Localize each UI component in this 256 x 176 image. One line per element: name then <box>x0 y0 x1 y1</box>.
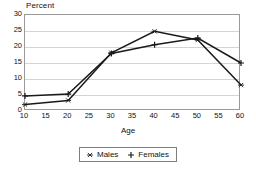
plus-marker-icon <box>127 151 135 159</box>
x-tick-label: 20 <box>63 112 71 120</box>
series-line <box>25 31 241 104</box>
x-tick-label: 40 <box>149 112 157 120</box>
x-tick-label: 30 <box>106 112 114 120</box>
series-females <box>22 35 244 99</box>
legend-label: Females <box>138 150 169 159</box>
data-point-marker <box>238 83 244 87</box>
y-axis-tick-labels: 051015202530 <box>0 14 22 110</box>
legend-label: Males <box>97 150 118 159</box>
y-tick-label: 15 <box>0 58 22 66</box>
data-point-marker <box>22 102 28 106</box>
x-tick-label: 55 <box>214 112 222 120</box>
y-tick-label: 0 <box>0 106 22 114</box>
y-tick-label: 20 <box>0 42 22 50</box>
data-point-marker <box>238 60 244 66</box>
series-layer <box>25 15 241 111</box>
data-point-marker <box>152 42 158 48</box>
x-tick-label: 10 <box>20 112 28 120</box>
legend-item-females: Females <box>127 150 169 159</box>
x-tick-label: 50 <box>193 112 201 120</box>
x-tick-label: 15 <box>41 112 49 120</box>
data-point-marker <box>65 98 71 102</box>
data-point-marker <box>152 29 158 33</box>
chart-figure: Percent 051015202530 1015202530354045505… <box>0 0 256 176</box>
y-tick-label: 30 <box>0 10 22 18</box>
asterisk-marker-icon <box>86 151 94 159</box>
y-tick-label: 10 <box>0 74 22 82</box>
x-tick-label: 60 <box>236 112 244 120</box>
y-tick-label: 5 <box>0 90 22 98</box>
y-axis-title: Percent <box>26 1 54 10</box>
x-tick-label: 35 <box>128 112 136 120</box>
chart-legend: MalesFemales <box>79 147 177 162</box>
plot-area <box>24 14 240 110</box>
x-axis-title: Age <box>0 126 256 135</box>
series-line <box>25 38 241 96</box>
x-tick-label: 25 <box>85 112 93 120</box>
x-axis-tick-labels: 1015202530354045505560 <box>24 112 240 123</box>
x-tick-label: 45 <box>171 112 179 120</box>
legend-item-males: Males <box>86 150 118 159</box>
y-tick-label: 25 <box>0 26 22 34</box>
data-point-marker <box>22 93 28 99</box>
